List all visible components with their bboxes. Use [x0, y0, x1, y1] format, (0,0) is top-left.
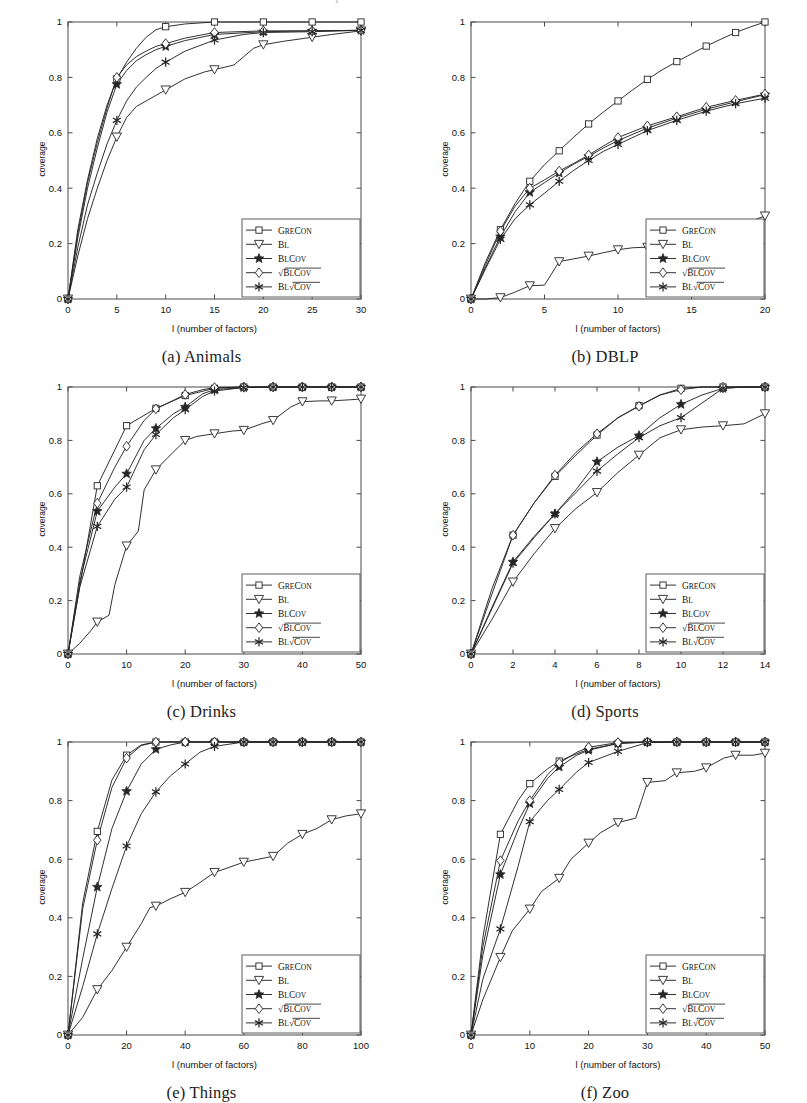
legend-label-grecon: GRECON [682, 962, 716, 972]
legend-label-blsqrtcov: BL√COV [682, 1018, 716, 1028]
y-tick-label: 0.8 [452, 435, 465, 446]
chart-drinks: 0102030405000.20.40.60.81GRECONBLBLCOV√B… [0, 365, 403, 720]
y-tick-label: 0.2 [49, 595, 62, 606]
subplot-cell-drinks: 0102030405000.20.40.60.81GRECONBLBLCOV√B… [0, 365, 403, 720]
y-tick-label: 1 [57, 16, 62, 27]
legend-label-grecon: GRECON [682, 581, 716, 591]
legend-label-sqrtblcov: √BLCOV [682, 1004, 716, 1014]
y-tick-label: 0.8 [49, 795, 62, 806]
y-tick-label: 1 [460, 736, 465, 747]
y-tick-label: 0.6 [452, 488, 465, 499]
legend-drinks: GRECONBLBLCOV√BLCOVBL√COV [242, 574, 360, 652]
legend-label-blsqrtcov: BL√COV [682, 637, 716, 647]
y-tick-label: 0.4 [452, 542, 465, 553]
legend-dblp: GRECONBLBLCOV√BLCOVBL√COV [646, 219, 764, 297]
subplot-caption-dblp: (b) DBLP [403, 347, 807, 367]
y-tick-label: 0 [460, 293, 465, 304]
x-axis-label: l (number of factors) [68, 1059, 361, 1070]
x-tick-label: 20 [258, 304, 269, 315]
x-tick-label: 14 [760, 659, 771, 670]
legend-label-sqrtblcov: √BLCOV [682, 268, 716, 278]
legend-label-blsqrtcov: BL√COV [682, 282, 716, 292]
x-tick-label: 12 [718, 659, 729, 670]
y-tick-label: 0.2 [452, 238, 465, 249]
x-tick-label: 8 [636, 659, 641, 670]
y-tick-label: 0 [57, 1029, 62, 1040]
y-tick-label: 0.4 [49, 912, 62, 923]
x-tick-label: 40 [180, 1040, 191, 1051]
y-axis-label: coverage [440, 857, 450, 917]
x-tick-label: 0 [65, 304, 70, 315]
legend-label-blsqrtcov: BL√COV [278, 1018, 312, 1028]
subplot-caption-zoo: (f) Zoo [403, 1083, 807, 1103]
legend-label-sqrtblcov: √BLCOV [682, 623, 716, 633]
legend-label-bl: BL [278, 595, 289, 605]
subplot-caption-things: (e) Things [0, 1083, 403, 1103]
y-tick-label: 0 [57, 293, 62, 304]
y-tick-label: 0.2 [452, 971, 465, 982]
legend-label-grecon: GRECON [278, 581, 312, 591]
chart-dblp: 0510152000.20.40.60.81GRECONBLBLCOV√BLCO… [403, 0, 807, 365]
y-tick-label: 0.2 [49, 238, 62, 249]
legend-animals: GRECONBLBLCOV√BLCOVBL√COV [242, 219, 360, 297]
legend-zoo: GRECONBLBLCOV√BLCOVBL√COV [646, 955, 764, 1033]
x-tick-label: 80 [297, 1040, 308, 1051]
y-tick-label: 0.8 [49, 435, 62, 446]
chart-animals: 05101520253000.20.40.60.81GRECONBLBLCOV√… [0, 0, 403, 365]
chart-canvas-zoo: 0102030405000.20.40.60.81GRECONBLBLCOV√B… [403, 720, 807, 1101]
chart-canvas-drinks: 0102030405000.20.40.60.81GRECONBLBLCOV√B… [0, 365, 403, 720]
y-tick-label: 0.6 [452, 127, 465, 138]
x-tick-label: 10 [525, 1040, 536, 1051]
legend-label-grecon: GRECON [278, 226, 312, 236]
legend-label-bl: BL [278, 240, 289, 250]
legend-things: GRECONBLBLCOV√BLCOVBL√COV [242, 955, 360, 1033]
x-tick-label: 20 [180, 659, 191, 670]
x-tick-label: 50 [760, 1040, 771, 1051]
x-tick-label: 30 [239, 659, 250, 670]
x-tick-label: 0 [65, 1040, 70, 1051]
x-tick-label: 40 [297, 659, 308, 670]
y-axis-label: coverage [37, 129, 47, 189]
legend-label-blcov: BLCOV [682, 990, 711, 1000]
legend-label-grecon: GRECON [682, 226, 716, 236]
x-tick-label: 50 [356, 659, 367, 670]
y-tick-label: 0.8 [49, 72, 62, 83]
x-tick-label: 25 [307, 304, 318, 315]
x-tick-label: 15 [686, 304, 697, 315]
subplot-cell-sports: 0246810121400.20.40.60.81GRECONBLBLCOV√B… [403, 365, 807, 720]
y-tick-label: 1 [460, 16, 465, 27]
x-tick-label: 6 [594, 659, 599, 670]
y-axis-label: coverage [37, 489, 47, 549]
x-tick-label: 10 [160, 304, 171, 315]
y-tick-label: 0 [460, 648, 465, 659]
x-tick-label: 0 [468, 659, 473, 670]
y-tick-label: 0.6 [452, 854, 465, 865]
legend-label-grecon: GRECON [278, 962, 312, 972]
subplot-caption-animals: (a) Animals [0, 347, 403, 367]
subplot-cell-zoo: 0102030405000.20.40.60.81GRECONBLBLCOV√B… [403, 720, 807, 1101]
y-tick-label: 1 [57, 736, 62, 747]
x-tick-label: 20 [760, 304, 771, 315]
x-axis-label: l (number of factors) [68, 323, 361, 334]
x-tick-label: 0 [468, 1040, 473, 1051]
legend-label-blcov: BLCOV [278, 990, 307, 1000]
x-tick-label: 20 [121, 1040, 132, 1051]
x-tick-label: 10 [121, 659, 132, 670]
y-axis-label: coverage [37, 857, 47, 917]
x-tick-label: 15 [209, 304, 220, 315]
y-tick-label: 0.2 [49, 971, 62, 982]
x-tick-label: 10 [613, 304, 624, 315]
x-tick-label: 2 [510, 659, 515, 670]
legend-sports: GRECONBLBLCOV√BLCOVBL√COV [646, 574, 764, 652]
chart-canvas-sports: 0246810121400.20.40.60.81GRECONBLBLCOV√B… [403, 365, 807, 720]
y-tick-label: 0.8 [452, 795, 465, 806]
chart-sports: 0246810121400.20.40.60.81GRECONBLBLCOV√B… [403, 365, 807, 720]
legend-label-bl: BL [278, 976, 289, 986]
legend-label-bl: BL [682, 976, 693, 986]
subplot-cell-things: 02040608010000.20.40.60.81GRECONBLBLCOV√… [0, 720, 403, 1101]
x-axis-label: l (number of factors) [68, 678, 361, 689]
legend-label-sqrtblcov: √BLCOV [278, 268, 312, 278]
legend-label-blsqrtcov: BL√COV [278, 637, 312, 647]
x-tick-label: 0 [65, 659, 70, 670]
subplot-caption-drinks: (c) Drinks [0, 702, 403, 722]
